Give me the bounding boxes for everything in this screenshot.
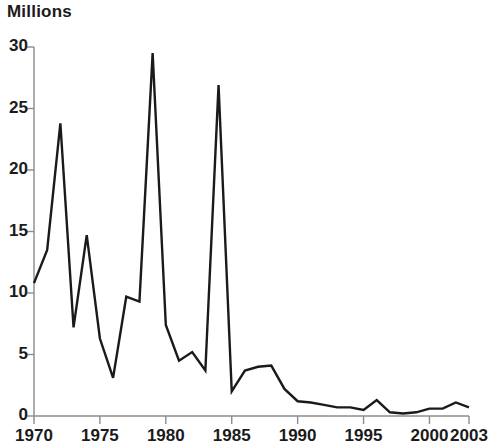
x-tick-label: 2003 (439, 426, 492, 446)
y-tick-label: 0 (0, 405, 28, 425)
y-tick-label: 15 (0, 221, 28, 241)
y-tick-label: 30 (0, 36, 28, 56)
x-tick-label: 1970 (4, 426, 64, 446)
y-tick-label: 5 (0, 344, 28, 364)
x-tick-label: 1995 (334, 426, 394, 446)
x-tick-label: 1990 (268, 426, 328, 446)
x-tick-label: 1980 (136, 426, 196, 446)
axes (34, 47, 469, 416)
x-tick-label: 1985 (202, 426, 262, 446)
y-tick-label: 25 (0, 98, 28, 118)
data-series-line (34, 53, 469, 413)
y-tick-label: 20 (0, 159, 28, 179)
x-tick-label: 1975 (70, 426, 130, 446)
tick-marks (27, 47, 469, 424)
y-tick-label: 10 (0, 282, 28, 302)
